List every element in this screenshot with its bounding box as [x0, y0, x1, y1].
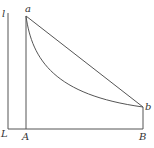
label-B: B — [138, 131, 146, 142]
diagram-canvas: l a b L A B — [0, 0, 154, 148]
label-l: l — [2, 8, 5, 19]
diagram-svg: l a b L A B — [0, 0, 154, 148]
label-a: a — [25, 3, 31, 14]
label-A: A — [21, 131, 29, 142]
label-L: L — [0, 128, 8, 139]
label-b: b — [145, 101, 151, 112]
